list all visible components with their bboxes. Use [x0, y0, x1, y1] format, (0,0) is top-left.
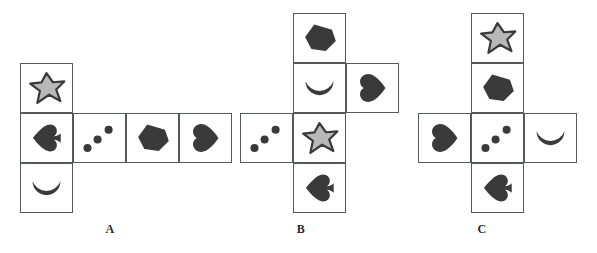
figure-label-b: B	[281, 222, 321, 237]
spade-shape	[21, 114, 72, 162]
crescent-shape	[294, 64, 345, 112]
spade-shape	[294, 164, 345, 212]
cell-c-row0-c1[interactable]	[471, 13, 524, 63]
pentagon-shape	[472, 64, 523, 112]
three-dots-shape	[74, 114, 125, 162]
figure-canvas: ABC	[0, 0, 597, 253]
heart-shape	[180, 114, 231, 162]
pentagon-shape	[127, 114, 178, 162]
three-dots-shape	[241, 114, 292, 162]
cell-a-mid-1[interactable]	[20, 113, 73, 163]
cell-b-row2-c1[interactable]	[293, 113, 346, 163]
cell-b-row3-c1[interactable]	[293, 163, 346, 213]
cell-b-row1-c2[interactable]	[346, 63, 399, 113]
crescent-shape	[21, 164, 72, 212]
cell-c-row3-c1[interactable]	[471, 163, 524, 213]
spade-shape	[472, 164, 523, 212]
cell-b-row0-c1[interactable]	[293, 13, 346, 63]
cell-a-mid-4[interactable]	[179, 113, 232, 163]
star-shape	[294, 114, 345, 162]
three-dots-shape	[472, 114, 523, 162]
cell-a-top[interactable]	[20, 63, 73, 113]
crescent-shape	[525, 114, 576, 162]
figure-label-a: A	[90, 222, 130, 237]
figure-label-c: C	[462, 222, 502, 237]
cell-c-row2-c2[interactable]	[524, 113, 577, 163]
cell-a-mid-2[interactable]	[73, 113, 126, 163]
cell-a-bottom[interactable]	[20, 163, 73, 213]
pentagon-shape	[294, 14, 345, 62]
cell-b-row2-c0[interactable]	[240, 113, 293, 163]
cell-b-row1-c1[interactable]	[293, 63, 346, 113]
cell-a-mid-3[interactable]	[126, 113, 179, 163]
heart-shape	[347, 64, 398, 112]
star-shape	[21, 64, 72, 112]
cell-c-row2-c0[interactable]	[418, 113, 471, 163]
cell-c-row1-c1[interactable]	[471, 63, 524, 113]
cell-c-row2-c1[interactable]	[471, 113, 524, 163]
heart-shape	[419, 114, 470, 162]
cube-net-c	[418, 13, 597, 213]
star-shape	[472, 14, 523, 62]
